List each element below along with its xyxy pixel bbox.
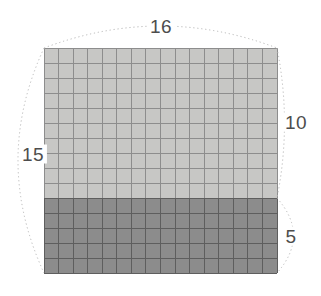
label-right-upper-height: 10 [282,113,310,132]
label-top-width: 16 [147,17,175,36]
grid-diagram [0,0,321,296]
diagram-root: 16 15 10 5 [0,0,321,296]
label-left-total-height: 15 [19,145,47,164]
label-right-lower-height: 5 [282,227,299,246]
